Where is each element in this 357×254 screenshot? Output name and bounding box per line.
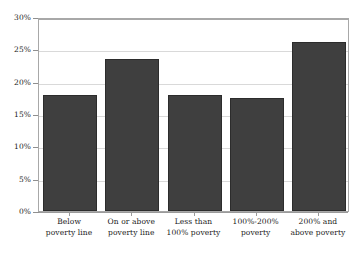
- bar: [43, 95, 97, 211]
- bar-chart: 0%5%10%15%20%25%30% Belowpoverty lineOn …: [0, 0, 357, 254]
- x-tick-mark: [318, 212, 319, 216]
- x-axis-category-label: Belowpoverty line: [38, 216, 100, 238]
- x-axis-category-label-line: Below: [38, 216, 100, 227]
- x-axis-category-label-line: above poverty: [287, 227, 349, 238]
- x-axis-category-label: 100%-200%poverty: [225, 216, 287, 238]
- x-axis-category-label-line: 100%-200%: [225, 216, 287, 227]
- bar: [230, 98, 284, 211]
- y-axis-tick-label: 10%: [1, 142, 31, 151]
- y-tick-mark-20%: [33, 83, 38, 84]
- y-tick-mark-5%: [33, 180, 38, 181]
- x-axis-category-label-line: poverty line: [38, 227, 100, 238]
- x-axis-category-label-line: 100% poverty: [162, 227, 224, 238]
- x-axis-category-label-line: poverty line: [100, 227, 162, 238]
- y-axis-tick-label: 0%: [1, 207, 31, 216]
- bars-container: [39, 19, 348, 211]
- y-axis-tick-label: 5%: [1, 175, 31, 184]
- bar: [105, 59, 159, 211]
- x-axis-labels: Belowpoverty lineOn or abovepoverty line…: [38, 216, 349, 250]
- x-axis-category-label-line: On or above: [100, 216, 162, 227]
- x-tick-mark: [131, 212, 132, 216]
- y-axis-labels: 0%5%10%15%20%25%30%: [0, 0, 31, 254]
- y-tick-mark-0%: [33, 212, 38, 213]
- y-axis-tick-label: 25%: [1, 45, 31, 54]
- y-axis-tick-label: 30%: [1, 13, 31, 22]
- y-axis-tick-label: 20%: [1, 78, 31, 87]
- y-axis-tick-label: 15%: [1, 110, 31, 119]
- y-tick-mark-10%: [33, 147, 38, 148]
- x-axis-category-label: Less than100% poverty: [162, 216, 224, 238]
- x-axis-category-label-line: poverty: [225, 227, 287, 238]
- x-tick-mark: [69, 212, 70, 216]
- x-axis-category-label: On or abovepoverty line: [100, 216, 162, 238]
- bar: [168, 95, 222, 211]
- plot-area: [38, 18, 349, 212]
- x-axis-category-label-line: Less than: [162, 216, 224, 227]
- y-tick-mark-15%: [33, 115, 38, 116]
- x-axis-category-label-line: 200% and: [287, 216, 349, 227]
- y-tick-mark-30%: [33, 18, 38, 19]
- bar: [292, 42, 346, 211]
- x-tick-mark: [256, 212, 257, 216]
- x-tick-mark: [194, 212, 195, 216]
- y-tick-mark-25%: [33, 50, 38, 51]
- x-axis-category-label: 200% andabove poverty: [287, 216, 349, 238]
